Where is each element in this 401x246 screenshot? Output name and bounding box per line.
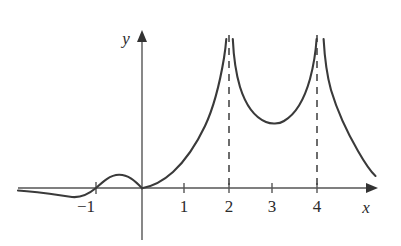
curve-branch-after-4 [324, 39, 376, 176]
tick-label-neg1: −1 [77, 197, 95, 216]
tick-label-2: 2 [225, 197, 234, 216]
curve-left-branch [18, 175, 142, 197]
curve-branch-0-to-2 [142, 39, 226, 188]
curve-branch-2-to-4 [233, 39, 317, 124]
plot-svg: −1 1 2 3 4 x y [0, 0, 401, 246]
x-axis-label: x [361, 198, 370, 217]
tick-label-4: 4 [313, 197, 322, 216]
tick-label-1: 1 [180, 197, 189, 216]
y-axis-arrowhead [137, 30, 147, 42]
x-axis-arrowhead [366, 183, 378, 193]
y-axis-label: y [120, 29, 130, 48]
function-graph-figure: −1 1 2 3 4 x y [0, 0, 401, 246]
tick-label-3: 3 [268, 197, 277, 216]
